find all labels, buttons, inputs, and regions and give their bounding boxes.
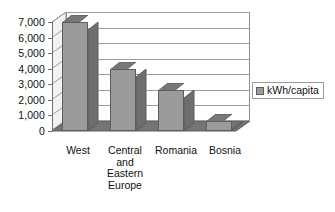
y-tick-mark-7000	[48, 22, 52, 23]
bar-cee-face	[110, 69, 136, 131]
y-tick-label-3000: 3,000	[0, 79, 45, 90]
kwh-capita-swatch-icon	[256, 87, 264, 95]
y-tick-mark-4000	[48, 69, 52, 70]
bar-central-and-eastern-europe[interactable]	[110, 69, 136, 131]
bar-west-side	[88, 22, 98, 131]
x-label-romania-line-1: Romania	[146, 145, 206, 157]
y-tick-mark-0	[48, 131, 52, 132]
legend-label-kwh-capita: kWh/capita	[267, 85, 319, 96]
bar-romania[interactable]	[158, 90, 184, 131]
x-label-romania: Romania	[146, 145, 206, 157]
x-label-cee-line-4: Europe	[96, 180, 154, 192]
bar-bosnia-face	[206, 121, 232, 131]
y-tick-mark-1000	[48, 115, 52, 116]
bar-bosnia[interactable]	[206, 121, 232, 131]
chart-root: 7,000 6,000 5,000 4,000 3,000 2,000 1,00…	[0, 0, 335, 212]
bar-romania-face	[158, 90, 184, 131]
bar-bosnia-side	[232, 121, 242, 131]
x-label-bosnia-line-1: Bosnia	[198, 145, 252, 157]
y-tick-mark-5000	[48, 53, 52, 54]
y-tick-label-5000: 5,000	[0, 48, 45, 59]
y-tick-mark-3000	[48, 84, 52, 85]
y-tick-label-2000: 2,000	[0, 95, 45, 106]
x-label-cee-line-3: Eastern	[96, 168, 154, 180]
chart-legend[interactable]: kWh/capita	[252, 82, 324, 99]
y-tick-label-6000: 6,000	[0, 33, 45, 44]
bar-west-face	[62, 22, 88, 131]
x-axis-labels: West Central and Eastern Europe Romania …	[0, 140, 335, 210]
bar-west[interactable]	[62, 22, 88, 131]
y-tick-label-0: 0	[0, 126, 45, 137]
bar-romania-side	[184, 90, 194, 131]
y-tick-label-7000: 7,000	[0, 17, 45, 28]
y-tick-label-1000: 1,000	[0, 110, 45, 121]
x-label-bosnia: Bosnia	[198, 145, 252, 157]
bar-cee-side	[136, 69, 146, 131]
y-tick-label-4000: 4,000	[0, 64, 45, 75]
y-tick-mark-2000	[48, 100, 52, 101]
y-tick-mark-6000	[48, 38, 52, 39]
